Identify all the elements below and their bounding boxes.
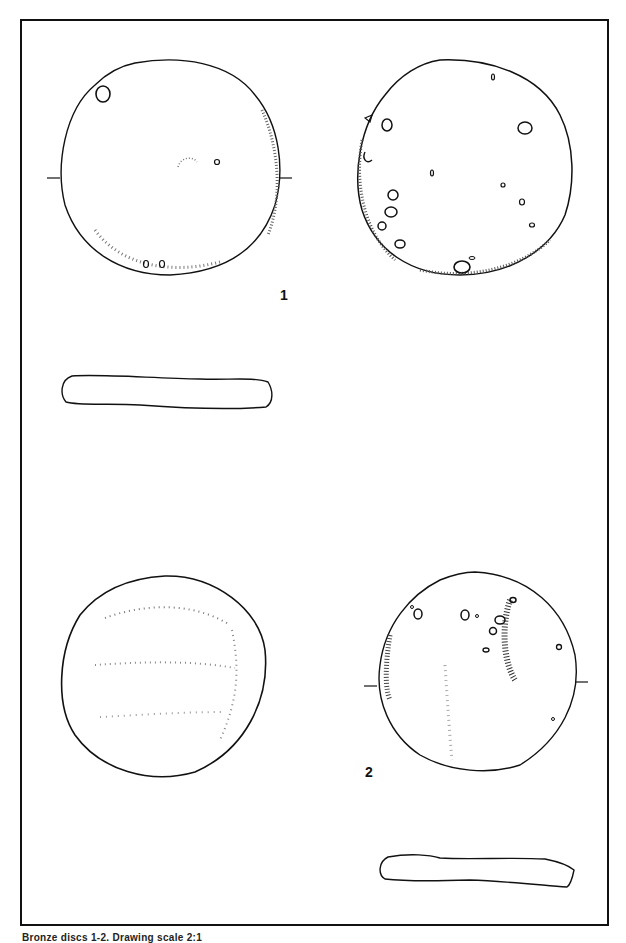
disc-2-profile	[380, 855, 574, 887]
disc-1-reverse	[358, 60, 572, 275]
disc-1-profile	[62, 375, 272, 408]
disc-2-obverse	[62, 576, 266, 777]
plate-caption: Bronze discs 1-2. Drawing scale 2:1	[22, 932, 202, 943]
figure-number-2: 2	[365, 764, 373, 780]
disc-2-reverse	[364, 572, 588, 771]
figure-number-1: 1	[280, 287, 288, 303]
disc-1-obverse	[47, 60, 292, 275]
